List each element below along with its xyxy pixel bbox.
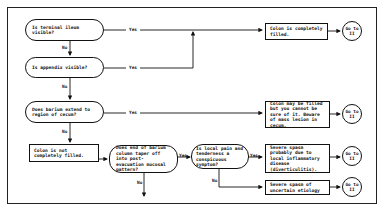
decision-barium-cecum: Does barium extend to region of cecum?	[25, 101, 104, 123]
outcome-text: Colon may be filled but you cannot be su…	[270, 101, 325, 128]
outcome-colon-may-be-filled: Colon may be filled but you cannot be su…	[265, 101, 330, 128]
yes-label: Yes	[129, 65, 137, 70]
decision-appendix: Is appendix visible?	[25, 57, 104, 78]
decision-text: Does end of barium column taper off into…	[116, 145, 171, 172]
yes-label: Yes	[129, 110, 137, 115]
outcome-colon-filled: Colon is completely filled.	[265, 23, 328, 40]
yes-label: Yes	[179, 153, 187, 158]
outcome-text: Severe spasm probably due to local infla…	[270, 145, 325, 172]
goto-circle-1: Go to II	[342, 21, 362, 41]
goto-text: Go to II	[343, 109, 361, 119]
outcome-colon-not-filled: Colon is not completely filled.	[29, 144, 99, 162]
decision-terminal-ileum: Is terminal ileum visible?	[25, 19, 104, 41]
goto-circle-2: Go to II	[342, 104, 362, 124]
no-label: No	[137, 180, 142, 185]
decision-local-pain: Is local pain and tenderness a conspicuo…	[191, 144, 249, 169]
outcome-text: Colon is completely filled.	[270, 26, 323, 37]
outcome-spasm-diverticulitis: Severe spasm probably due to local infla…	[265, 144, 330, 173]
no-label: No	[62, 129, 67, 134]
outcome-text: Severe spasm of uncertain etiology	[270, 182, 325, 193]
decision-text: Is appendix visible?	[32, 65, 87, 70]
outcome-text: Colon is not completely filled.	[34, 148, 94, 159]
no-label: No	[62, 84, 67, 89]
decision-barium-taper: Does end of barium column taper off into…	[109, 145, 178, 173]
decision-text: Is local pain and tenderness a conspicuo…	[196, 146, 244, 168]
decision-text: Is terminal ileum visible?	[32, 25, 97, 36]
goto-circle-3: Go to II	[342, 146, 362, 166]
yes-label: Yes	[250, 153, 258, 158]
decision-text: Does barium extend to region of cecum?	[32, 107, 97, 118]
goto-text: Go to II	[343, 182, 361, 192]
goto-circle-4: Go to II	[342, 177, 362, 197]
goto-text: Go to II	[343, 151, 361, 161]
goto-text: Go to II	[343, 26, 361, 36]
outcome-spasm-uncertain: Severe spasm of uncertain etiology	[265, 180, 330, 195]
no-label: No	[212, 178, 217, 183]
yes-label: Yes	[129, 27, 137, 32]
no-label: No	[62, 45, 67, 50]
